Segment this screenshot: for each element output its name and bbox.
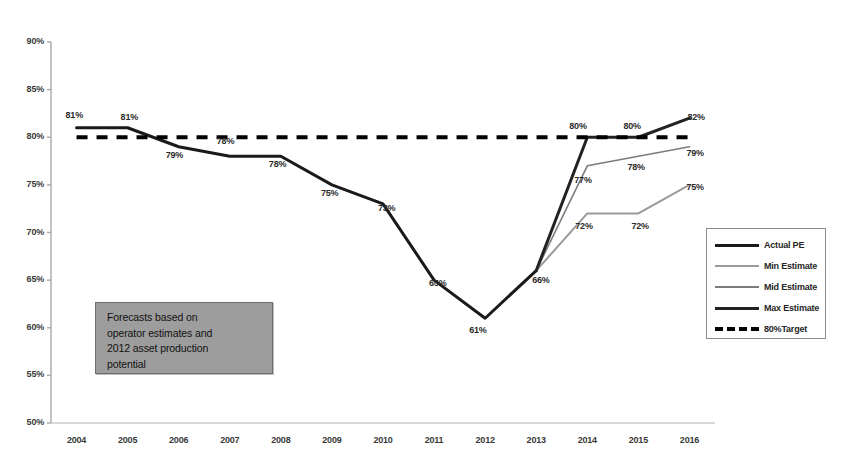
x-axis-tick-label: 2014: [563, 435, 611, 445]
legend-item-label: Max Estimate: [764, 303, 819, 313]
series-line-max-estimate: [536, 118, 689, 270]
series-line-min-estimate: [536, 185, 689, 271]
forecast-note-line: Forecasts based on: [107, 310, 263, 326]
data-point-label: 82%: [687, 112, 704, 122]
y-axis-tick-label: 90%: [10, 36, 44, 46]
legend-swatch-icon: [715, 260, 759, 272]
data-point-label: 80%: [569, 121, 586, 131]
x-axis-tick-label: 2015: [614, 435, 662, 445]
forecast-note-line: operator estimates and: [107, 326, 263, 342]
x-axis-tick-label: 2006: [155, 435, 203, 445]
legend-item-label: 80%Target: [764, 324, 807, 334]
data-point-label: 78%: [269, 159, 286, 169]
data-point-label: 72%: [631, 221, 648, 231]
forecast-note-box: Forecasts based onoperator estimates and…: [95, 302, 273, 374]
legend-item-min-estimate[interactable]: Min Estimate: [715, 259, 817, 273]
chart-container: 90%85%80%75%70%65%60%55%50% 200420052006…: [0, 0, 850, 464]
y-axis-tick-label: 60%: [10, 322, 44, 332]
data-point-label: 73%: [378, 203, 395, 213]
data-point-label: 78%: [627, 162, 644, 172]
y-axis-tick-label: 75%: [10, 179, 44, 189]
x-axis-tick-label: 2009: [308, 435, 356, 445]
forecast-note-line: 2012 asset production: [107, 341, 263, 357]
data-point-label: 79%: [166, 150, 183, 160]
legend-item-actual-pe[interactable]: Actual PE: [715, 238, 804, 252]
x-axis-tick-label: 2012: [461, 435, 509, 445]
chart-legend: Actual PEMin EstimateMid EstimateMax Est…: [706, 228, 826, 339]
y-axis-tick-label: 55%: [10, 369, 44, 379]
x-axis-tick-label: 2005: [104, 435, 152, 445]
data-point-label: 81%: [121, 112, 138, 122]
legend-swatch-icon: [715, 281, 759, 293]
legend-item-max-estimate[interactable]: Max Estimate: [715, 301, 819, 315]
data-point-label: 79%: [686, 148, 703, 158]
legend-item-label: Actual PE: [764, 240, 804, 250]
legend-item-label: Mid Estimate: [764, 282, 817, 292]
data-point-label: 80%: [623, 121, 640, 131]
data-point-label: 78%: [217, 136, 234, 146]
x-axis-tick-label: 2011: [410, 435, 458, 445]
data-point-label: 75%: [686, 182, 703, 192]
y-axis-tick-label: 80%: [10, 131, 44, 141]
y-axis-tick-label: 70%: [10, 227, 44, 237]
legend-swatch-icon: [715, 323, 759, 335]
series-line-actual-pe: [77, 128, 537, 319]
x-axis-tick-label: 2010: [359, 435, 407, 445]
data-point-label: 61%: [469, 325, 486, 335]
x-axis-tick-label: 2004: [53, 435, 101, 445]
data-point-label: 65%: [429, 278, 446, 288]
legend-swatch-icon: [715, 239, 759, 251]
data-point-label: 72%: [575, 221, 592, 231]
y-axis-tick-label: 50%: [10, 417, 44, 427]
forecast-note-line: potential: [107, 357, 263, 373]
data-point-label: 66%: [532, 275, 549, 285]
legend-item-label: Min Estimate: [764, 261, 817, 271]
y-axis-tick-label: 85%: [10, 84, 44, 94]
data-point-label: 75%: [321, 188, 338, 198]
x-axis-tick-label: 2013: [512, 435, 560, 445]
x-axis-tick-label: 2008: [257, 435, 305, 445]
chart-series-group: [77, 118, 690, 318]
x-axis-tick-label: 2007: [206, 435, 254, 445]
data-point-label: 81%: [66, 110, 83, 120]
data-point-label: 77%: [574, 175, 591, 185]
legend-item-mid-estimate[interactable]: Mid Estimate: [715, 280, 817, 294]
legend-swatch-icon: [715, 302, 759, 314]
legend-item-80-target[interactable]: 80%Target: [715, 322, 807, 336]
y-axis-tick-label: 65%: [10, 274, 44, 284]
x-axis-tick-label: 2016: [665, 435, 713, 445]
